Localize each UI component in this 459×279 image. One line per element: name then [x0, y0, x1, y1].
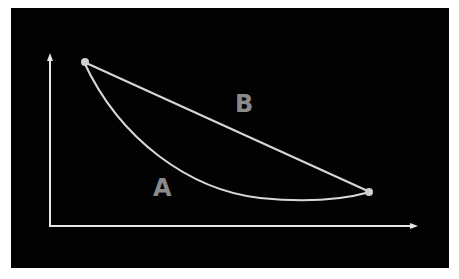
y-axis-arrowhead-icon — [47, 53, 53, 61]
start-point-dot — [81, 58, 89, 66]
end-point-dot — [365, 188, 373, 196]
x-axis — [49, 223, 418, 229]
diagram-canvas — [0, 0, 459, 279]
x-axis-arrowhead-icon — [410, 223, 418, 229]
y-axis — [47, 53, 53, 226]
path-a-curve — [84, 62, 370, 200]
label-b: B — [235, 92, 253, 116]
label-a: A — [153, 176, 172, 200]
